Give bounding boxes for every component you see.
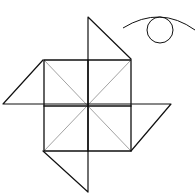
left-flap [3,60,88,104]
eyelid-arc [123,17,195,30]
top-flap [88,17,131,106]
right-flap [88,104,171,151]
diagram-canvas [0,0,195,195]
pinwheel [3,17,171,192]
iris-circle [147,17,173,43]
eye-symbol [123,17,195,43]
bottom-flap [43,106,88,192]
